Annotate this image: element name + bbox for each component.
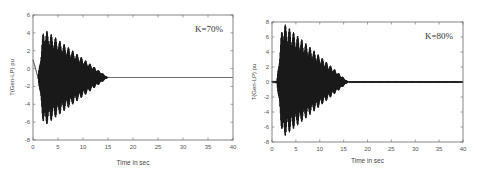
x-tick-label: 25	[155, 144, 162, 150]
x-tick-label: 15	[105, 144, 112, 150]
x-tick-label: 20	[364, 146, 371, 152]
y-tick-label: -4	[25, 101, 31, 107]
x-tick-label: 25	[388, 146, 395, 152]
x-tick-label: 30	[180, 144, 187, 150]
k-annotation: K=70%	[195, 24, 224, 34]
y-tick-label: -8	[264, 139, 270, 145]
y-tick-label: 2	[266, 64, 270, 70]
x-tick-label: 0	[31, 144, 35, 150]
y-tick-label: -4	[264, 109, 270, 115]
y-axis-label: T(Gen-LP) pu	[9, 59, 15, 96]
y-tick-label: 6	[266, 34, 270, 40]
x-tick-label: 20	[130, 144, 137, 150]
y-tick-label: -6	[25, 119, 31, 125]
y-tick-label: -8	[25, 137, 31, 143]
y-tick-label: 0	[27, 66, 31, 72]
x-tick-label: 0	[270, 146, 274, 152]
y-tick-label: 6	[27, 12, 31, 18]
y-tick-label: 4	[27, 30, 31, 36]
x-tick-label: 35	[205, 144, 212, 150]
x-tick-label: 40	[230, 144, 237, 150]
y-tick-label: 8	[266, 19, 270, 25]
chart-k70-svg: 0510152025303540-8-6-4-20246Time in secT…	[0, 0, 245, 177]
x-tick-label: 15	[340, 146, 347, 152]
x-axis-label: Time in sec	[117, 159, 151, 166]
x-tick-label: 10	[316, 146, 323, 152]
chart-k80: 0510152025303540-8-6-4-202468Time in sec…	[250, 0, 483, 177]
x-tick-label: 5	[56, 144, 60, 150]
y-tick-label: 2	[27, 48, 31, 54]
y-tick-label: -2	[264, 94, 270, 100]
x-tick-label: 5	[294, 146, 298, 152]
chart-k70: 0510152025303540-8-6-4-20246Time in secT…	[0, 0, 245, 177]
y-tick-label: -2	[25, 83, 31, 89]
x-tick-label: 30	[412, 146, 419, 152]
signal-line	[33, 31, 233, 124]
x-tick-label: 35	[436, 146, 443, 152]
y-axis-label: T(Gen-LP) pu	[251, 64, 257, 101]
x-tick-label: 10	[80, 144, 87, 150]
chart-k80-svg: 0510152025303540-8-6-4-202468Time in sec…	[250, 0, 483, 177]
y-tick-label: 0	[266, 79, 270, 85]
y-tick-label: 4	[266, 49, 270, 55]
y-tick-label: -6	[264, 124, 270, 130]
signal-line	[272, 25, 463, 136]
k-annotation: K=80%	[425, 31, 454, 41]
x-tick-label: 40	[460, 146, 467, 152]
x-axis-label: Time in sec	[351, 157, 385, 164]
